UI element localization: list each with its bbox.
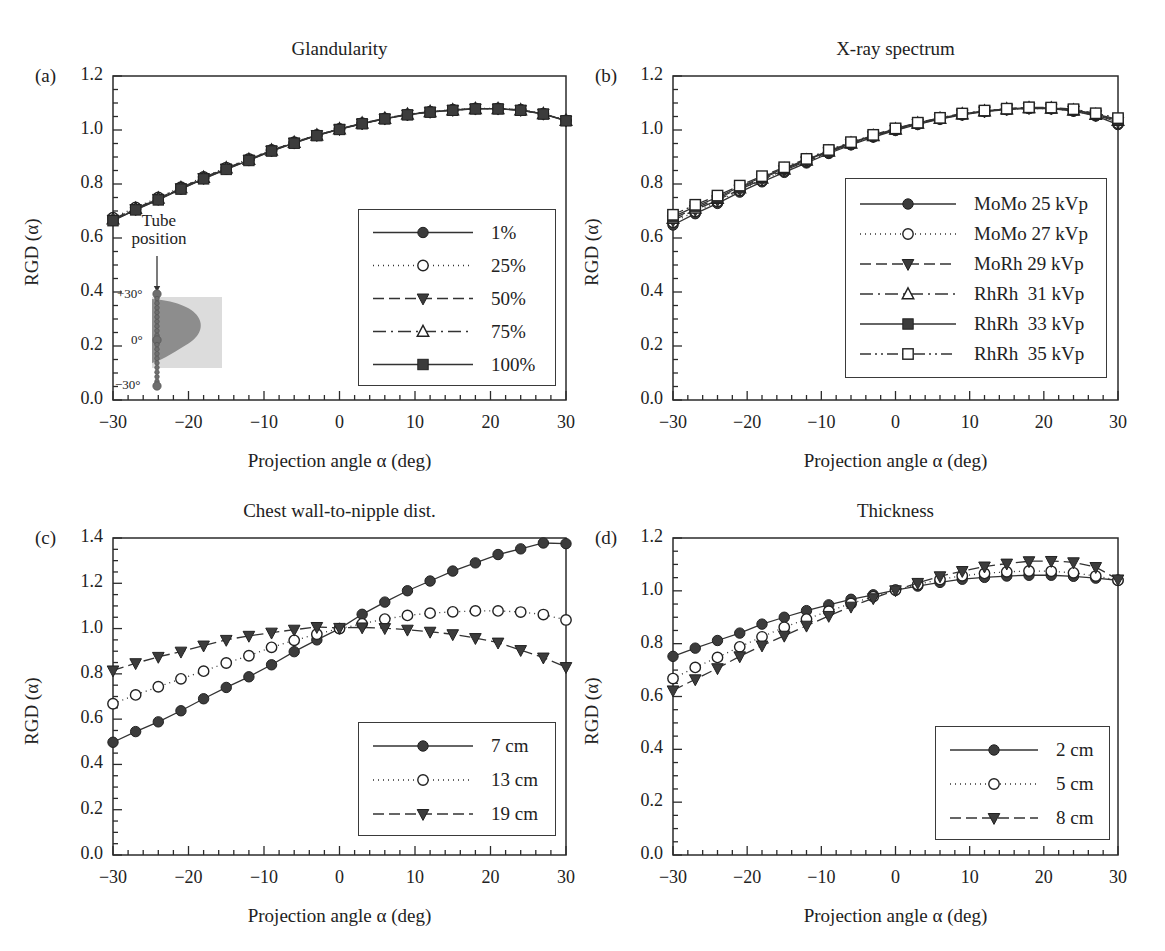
y-tick-c-1.2: 1.2: [51, 571, 103, 592]
legend-label: RhRh 33 kVp: [960, 313, 1084, 335]
legend-sample-open-square: [856, 339, 960, 369]
x-tick-b--10: −10: [791, 412, 851, 433]
x-tick-c--30: −30: [83, 867, 143, 888]
y-tick-a-1: 1.0: [51, 118, 103, 139]
y-axis-title-b: RGD (α): [581, 219, 603, 286]
legend-label: 75%: [477, 321, 526, 343]
y-axis-title-a: RGD (α): [21, 219, 43, 286]
legend-item-b-4[interactable]: RhRh 33 kVp: [856, 309, 1084, 339]
y-tick-c-1: 1.0: [51, 617, 103, 638]
figure-rgd-panels: (a)Glandularity−30−20−1001020300.00.20.4…: [0, 0, 1165, 951]
legend-sample-open-triangle-up: [369, 315, 477, 348]
y-tick-c-0.4: 0.4: [51, 752, 103, 773]
y-tick-c-0.2: 0.2: [51, 798, 103, 819]
x-tick-b--20: −20: [717, 412, 777, 433]
x-tick-a-30: 30: [536, 412, 596, 433]
legend-item-a-4[interactable]: 100%: [369, 348, 535, 381]
legend-d[interactable]: 2 cm5 cm8 cm: [935, 726, 1110, 840]
tube-position-note: Tubeposition: [115, 212, 203, 248]
legend-sample-filled-circle: [856, 189, 960, 219]
legend-item-a-1[interactable]: 25%: [369, 249, 526, 282]
legend-item-a-3[interactable]: 75%: [369, 315, 526, 348]
legend-item-c-2[interactable]: 19 cm: [369, 797, 538, 831]
legend-item-b-5[interactable]: RhRh 35 kVp: [856, 339, 1084, 369]
series-line-c-1: [113, 611, 566, 704]
y-tick-d-0.8: 0.8: [611, 632, 663, 653]
y-tick-a-0.2: 0.2: [51, 334, 103, 355]
legend-item-b-3[interactable]: RhRh 31 kVp: [856, 279, 1084, 309]
y-tick-c-0.8: 0.8: [51, 662, 103, 683]
x-tick-b-10: 10: [940, 412, 1000, 433]
x-axis-title-c: Projection angle α (deg): [113, 905, 566, 927]
y-tick-a-0.4: 0.4: [51, 280, 103, 301]
legend-a[interactable]: 1%25%50%75%100%: [358, 209, 556, 386]
legend-label: 7 cm: [477, 735, 528, 757]
legend-sample-filled-circle: [369, 216, 477, 249]
x-tick-a--20: −20: [159, 412, 219, 433]
legend-label: MoRh 29 kVp: [960, 253, 1084, 275]
y-tick-d-0: 0.0: [611, 843, 663, 864]
legend-sample-filled-circle: [946, 733, 1042, 767]
legend-label: 100%: [477, 354, 535, 376]
x-tick-a-0: 0: [310, 412, 370, 433]
y-tick-d-0.6: 0.6: [611, 685, 663, 706]
legend-sample-filled-triangle-down: [856, 249, 960, 279]
y-tick-a-0.8: 0.8: [51, 172, 103, 193]
x-tick-c-20: 20: [461, 867, 521, 888]
legend-item-b-0[interactable]: MoMo 25 kVp: [856, 189, 1088, 219]
x-tick-c--10: −10: [234, 867, 294, 888]
y-tick-a-1.2: 1.2: [51, 64, 103, 85]
x-tick-d--30: −30: [643, 867, 703, 888]
legend-item-c-0[interactable]: 7 cm: [369, 729, 528, 763]
legend-sample-open-circle: [946, 767, 1042, 801]
legend-item-b-1[interactable]: MoMo 27 kVp: [856, 219, 1088, 249]
y-tick-b-1: 1.0: [611, 118, 663, 139]
y-axis-title-c: RGD (α): [21, 677, 43, 744]
legend-item-d-2[interactable]: 8 cm: [946, 801, 1093, 835]
legend-item-c-1[interactable]: 13 cm: [369, 763, 538, 797]
series-line-d-1: [673, 571, 1118, 679]
y-tick-b-1.2: 1.2: [611, 64, 663, 85]
series-line-a-2: [113, 109, 566, 220]
y-tick-b-0.4: 0.4: [611, 280, 663, 301]
legend-sample-filled-square: [369, 348, 477, 381]
legend-item-d-1[interactable]: 5 cm: [946, 767, 1093, 801]
legend-label: 1%: [477, 222, 516, 244]
y-tick-b-0.2: 0.2: [611, 334, 663, 355]
legend-b[interactable]: MoMo 25 kVpMoMo 27 kVpMoRh 29 kVpRhRh 31…: [845, 178, 1107, 378]
legend-label: 25%: [477, 255, 526, 277]
x-tick-d--10: −10: [791, 867, 851, 888]
legend-sample-open-circle: [856, 219, 960, 249]
y-tick-b-0: 0.0: [611, 388, 663, 409]
x-tick-d--20: −20: [717, 867, 777, 888]
legend-sample-open-circle: [369, 763, 477, 797]
x-tick-b-30: 30: [1088, 412, 1148, 433]
y-tick-b-0.6: 0.6: [611, 226, 663, 247]
legend-label: 5 cm: [1042, 773, 1093, 795]
y-tick-c-0: 0.0: [51, 843, 103, 864]
x-axis-title-d: Projection angle α (deg): [673, 905, 1118, 927]
series-line-d-0: [673, 575, 1118, 656]
inset-label-zero: 0°: [131, 332, 143, 348]
series-line-d-2: [673, 561, 1118, 690]
y-tick-b-0.8: 0.8: [611, 172, 663, 193]
legend-label: 8 cm: [1042, 807, 1093, 829]
y-axis-title-d: RGD (α): [581, 677, 603, 744]
x-tick-d-20: 20: [1014, 867, 1074, 888]
tube-note-line2: position: [115, 230, 203, 248]
panel-title-d: Thickness: [673, 500, 1118, 522]
x-tick-d-30: 30: [1088, 867, 1148, 888]
legend-item-a-0[interactable]: 1%: [369, 216, 516, 249]
series-line-c-0: [113, 543, 566, 742]
y-tick-a-0: 0.0: [51, 388, 103, 409]
panel-title-c: Chest wall-to-nipple dist.: [113, 500, 566, 522]
legend-item-b-2[interactable]: MoRh 29 kVp: [856, 249, 1084, 279]
legend-item-d-0[interactable]: 2 cm: [946, 733, 1093, 767]
x-tick-a-20: 20: [461, 412, 521, 433]
legend-label: 2 cm: [1042, 739, 1093, 761]
y-tick-d-0.4: 0.4: [611, 737, 663, 758]
legend-item-a-2[interactable]: 50%: [369, 282, 526, 315]
x-tick-b-20: 20: [1014, 412, 1074, 433]
legend-c[interactable]: 7 cm13 cm19 cm: [358, 722, 556, 836]
x-tick-b-0: 0: [866, 412, 926, 433]
